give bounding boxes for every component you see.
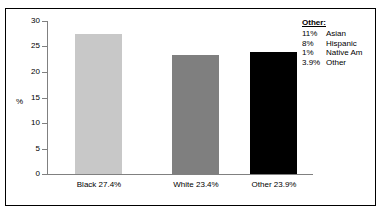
y-tick-label-20: 20	[14, 68, 40, 76]
legend-label-other: Other	[326, 58, 346, 68]
legend-label-native-american: Native Am	[326, 48, 362, 58]
y-tick-label-25-wrap: 25	[10, 42, 40, 50]
legend-other-breakdown: Other: 11%Asian 8%Hispanic 1%Native Am 3…	[302, 18, 384, 67]
y-tick-label-15: 15	[14, 94, 40, 102]
legend-percent-hispanic: 8%	[302, 39, 326, 49]
bar-white[interactable]	[172, 55, 219, 174]
y-tick-label-25: 25	[14, 42, 40, 50]
y-tick-label-0-wrap: 0	[10, 170, 40, 178]
y-tick-label-10-wrap: 10	[10, 119, 40, 127]
y-tick-label-20-wrap: 20	[10, 68, 40, 76]
y-tick-label-30: 30	[14, 17, 40, 25]
bar-chart-figure: % 30 25 20 15 10 5 0 Black 27.4% White 2…	[0, 0, 384, 218]
y-tick-label-30-wrap: 30	[10, 17, 40, 25]
legend-percent-asian: 11%	[302, 29, 326, 39]
x-label-other: Other 23.9%	[227, 180, 321, 189]
y-tick-label-10: 10	[14, 119, 40, 127]
legend-label-asian: Asian	[326, 29, 346, 39]
legend-percent-other: 3.9%	[302, 58, 326, 68]
x-axis-line	[47, 174, 313, 175]
y-tick-label-5: 5	[14, 145, 40, 153]
legend-row-other: 3.9%Other	[302, 58, 384, 68]
legend-title: Other:	[302, 18, 384, 28]
bars-layer	[47, 21, 313, 174]
y-tick-label-0: 0	[14, 170, 40, 178]
y-tick-0	[42, 174, 48, 175]
legend-row-hispanic: 8%Hispanic	[302, 39, 384, 49]
legend-label-hispanic: Hispanic	[326, 39, 357, 49]
legend-row-native-american: 1%Native Am	[302, 48, 384, 58]
x-label-black: Black 27.4%	[52, 180, 146, 189]
legend-row-asian: 11%Asian	[302, 29, 384, 39]
legend-percent-native-american: 1%	[302, 48, 326, 58]
bar-black[interactable]	[75, 34, 122, 174]
y-tick-label-5-wrap: 5	[10, 145, 40, 153]
bar-other[interactable]	[250, 52, 297, 174]
y-tick-label-15-wrap: 15	[10, 94, 40, 102]
